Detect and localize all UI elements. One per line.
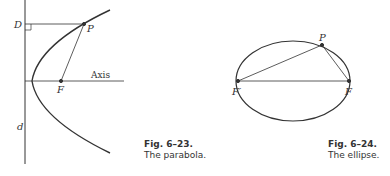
label-d-point: D [13,19,22,30]
right-angle-marker [25,24,31,30]
label-f-prime: F′ [231,86,242,97]
caption-fig-6-23: Fig. 6–23. The parabola. [144,139,206,161]
label-axis: Axis [90,70,110,80]
label-p: P [86,23,94,34]
focal-line-pf [61,24,84,81]
label-f: F [56,84,65,95]
caption-text: The ellipse. [328,150,379,161]
focus-right-dot [347,79,350,82]
caption-number: Fig. 6–23. [144,139,206,150]
ellipse-diagram [236,41,351,121]
parabola-curve [32,10,110,153]
focus-dot [59,79,62,82]
caption-number: Fig. 6–24. [328,139,379,150]
label-f: F [344,86,353,97]
focus-left-dot [236,79,239,82]
focal-line-pf-prime [238,45,322,81]
focal-line-pf [322,45,349,81]
point-p-dot [320,43,323,46]
parabola-diagram [25,0,124,164]
point-p-dot [82,22,85,25]
label-directrix-d: d [17,121,23,132]
caption-text: The parabola. [144,150,206,161]
caption-fig-6-24: Fig. 6–24. The ellipse. [328,139,379,161]
label-p: P [318,32,326,43]
